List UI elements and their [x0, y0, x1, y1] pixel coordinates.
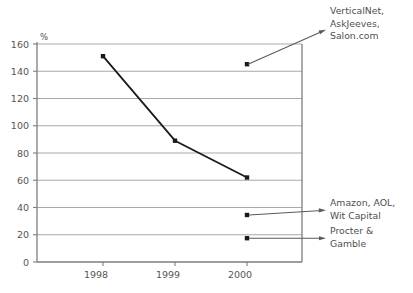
- annotation-label-verticalnet: VerticalNet, AskJeeves, Salon.com: [330, 5, 384, 41]
- annotation-verticalnet-line-1: VerticalNet,: [330, 5, 384, 16]
- annotated-marker-procter-gamble: [245, 236, 249, 240]
- leader-arrow-procter-gamble: [319, 236, 326, 240]
- xtick-label-1998: 1998: [84, 269, 108, 280]
- chart-container: 160 140 120 100 80 60 40 20 0 % 1998 199…: [0, 0, 413, 293]
- annotated-point-amazon-group: [245, 208, 326, 217]
- annotation-label-amazon: Amazon, AOL, Wit Capital: [330, 197, 395, 221]
- ytick-label-60: 60: [17, 175, 29, 186]
- ytick-label-140: 140: [11, 66, 29, 77]
- annotation-verticalnet-line-3: Salon.com: [330, 30, 379, 41]
- ytick-label-0: 0: [23, 257, 29, 268]
- leader-arrow-amazon: [319, 208, 326, 212]
- leader-line-amazon: [249, 211, 322, 216]
- ytick-label-120: 120: [11, 93, 29, 104]
- ytick-label-20: 20: [17, 229, 29, 240]
- annotated-point-procter-gamble-group: [245, 236, 326, 240]
- data-point-2000: [245, 175, 249, 179]
- annotation-procter-gamble-line-1: Procter &: [330, 225, 373, 236]
- annotated-marker-amazon: [245, 213, 249, 217]
- annotation-label-procter-gamble: Procter & Gamble: [330, 225, 373, 249]
- xtick-label-2000: 2000: [228, 269, 252, 280]
- data-point-1999: [173, 139, 177, 143]
- ytick-label-40: 40: [17, 202, 29, 213]
- annotation-amazon-line-2: Wit Capital: [330, 210, 381, 221]
- data-line-main-trend: [103, 56, 247, 177]
- annotated-point-verticalnet-group: [245, 30, 326, 67]
- xtick-label-1999: 1999: [156, 269, 180, 280]
- data-point-1998: [101, 54, 105, 58]
- y-axis-unit-label: %: [40, 32, 48, 42]
- annotation-verticalnet-line-2: AskJeeves,: [330, 18, 380, 29]
- ytick-label-100: 100: [11, 120, 29, 131]
- line-chart: 160 140 120 100 80 60 40 20 0 % 1998 199…: [0, 0, 413, 293]
- ytick-label-160: 160: [11, 39, 29, 50]
- gridlines: [37, 44, 302, 235]
- annotation-amazon-line-1: Amazon, AOL,: [330, 197, 395, 208]
- leader-line-verticalnet: [248, 32, 322, 65]
- ytick-label-80: 80: [17, 148, 29, 159]
- annotation-procter-gamble-line-2: Gamble: [330, 238, 366, 249]
- leader-arrow-verticalnet: [319, 30, 327, 35]
